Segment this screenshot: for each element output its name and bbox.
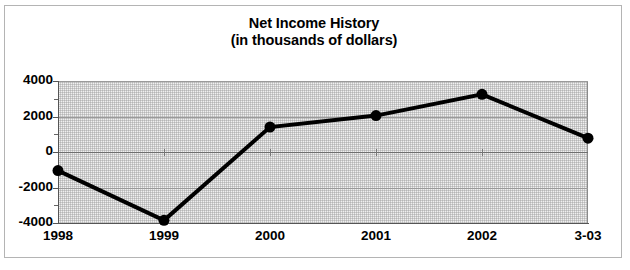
chart-title-line-1: Net Income History	[5, 15, 623, 32]
y-axis-label-4000: 4000	[23, 72, 53, 87]
chart-frame: Net Income History (in thousands of doll…	[4, 5, 622, 258]
data-point-1998	[53, 165, 64, 176]
data-point-1999	[159, 215, 170, 226]
y-axis-label--4000: -4000	[18, 214, 53, 229]
y-axis-labels: 400020000-2000-4000	[5, 81, 53, 223]
chart-title-line-2: (in thousands of dollars)	[5, 32, 623, 49]
series-polyline	[58, 94, 588, 220]
data-point-2002	[477, 89, 488, 100]
y-axis-label-2000: 2000	[23, 108, 53, 123]
data-point-3-03	[583, 133, 594, 144]
data-point-2000	[265, 122, 276, 133]
x-axis-label-1999: 1999	[149, 228, 179, 243]
chart-title: Net Income History (in thousands of doll…	[5, 15, 623, 49]
x-axis-label-3-03: 3-03	[574, 228, 601, 243]
x-axis-label-2000: 2000	[255, 228, 285, 243]
screenshot-root: Net Income History (in thousands of doll…	[0, 0, 630, 270]
x-axis-label-2001: 2001	[361, 228, 391, 243]
x-axis-label-1998: 1998	[43, 228, 73, 243]
y-axis-label--2000: -2000	[18, 179, 53, 194]
x-axis-line	[58, 223, 589, 224]
series-line-chart	[58, 81, 588, 223]
y-axis-label-0: 0	[45, 143, 53, 158]
x-axis-label-2002: 2002	[467, 228, 497, 243]
x-axis-labels: 199819992000200120023-03	[5, 228, 623, 252]
data-point-2001	[371, 110, 382, 121]
